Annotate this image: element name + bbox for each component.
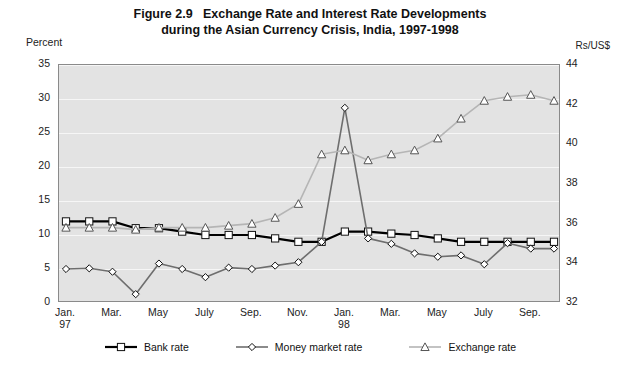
data-point-square <box>225 231 232 238</box>
data-series-layer <box>59 65 560 302</box>
x-axis-tick-label: Sep. <box>506 306 554 318</box>
x-axis-tick-label: May <box>134 306 182 318</box>
data-point-square <box>272 235 279 242</box>
left-axis-tick-label: 5 <box>22 261 50 273</box>
data-point-square <box>434 235 441 242</box>
data-point-diamond <box>527 245 534 252</box>
x-axis-tick-label: Nov. <box>273 306 321 318</box>
legend-label: Exchange rate <box>448 341 516 353</box>
plot-area <box>58 64 560 302</box>
data-point-diamond <box>248 343 255 350</box>
data-point-diamond <box>202 274 209 281</box>
left-axis-tick-label: 15 <box>22 193 50 205</box>
figure-container: Figure 2.9 Exchange Rate and Interest Ra… <box>0 0 620 368</box>
data-point-square <box>388 230 395 237</box>
left-axis-tick-label: 10 <box>22 227 50 239</box>
title-line-2: during the Asian Currency Crisis, India,… <box>0 22 620 38</box>
legend-marker-square-icon <box>104 340 138 354</box>
legend-item-bank-rate[interactable]: Bank rate <box>104 340 189 354</box>
data-point-diamond <box>388 240 395 247</box>
data-point-square <box>481 238 488 245</box>
data-point-triangle <box>294 200 302 208</box>
figure-number: Figure 2.9 <box>134 7 193 21</box>
legend-label: Money market rate <box>275 341 363 353</box>
data-point-square <box>202 231 209 238</box>
right-axis-tick-label: 32 <box>566 295 596 307</box>
data-point-diamond <box>434 253 441 260</box>
chart-legend: Bank rateMoney market rateExchange rate <box>0 340 620 354</box>
left-axis-unit-label: Percent <box>26 36 62 48</box>
data-point-diamond <box>364 235 371 242</box>
x-axis-tick-label: Jan.97 <box>41 306 89 330</box>
title-line-1: Exchange Rate and Interest Rate Developm… <box>203 7 486 21</box>
data-point-square <box>295 238 302 245</box>
legend-item-exchange-rate[interactable]: Exchange rate <box>408 340 516 354</box>
data-point-diamond <box>457 252 464 259</box>
x-axis-tick-label: Jan.98 <box>320 306 368 330</box>
data-point-diamond <box>272 262 279 269</box>
legend-marker-diamond-icon <box>235 340 269 354</box>
data-point-diamond <box>550 245 557 252</box>
data-point-square <box>341 228 348 235</box>
right-axis-tick-label: 38 <box>566 176 596 188</box>
right-axis-tick-label: 44 <box>566 57 596 69</box>
right-axis-tick-label: 42 <box>566 97 596 109</box>
x-axis-tick-label: Sep. <box>227 306 275 318</box>
x-axis-tick-label: May <box>413 306 461 318</box>
data-point-square <box>457 238 464 245</box>
left-axis-tick-label: 25 <box>22 125 50 137</box>
right-axis-tick-label: 34 <box>566 255 596 267</box>
series-exchange-rate <box>62 91 558 234</box>
data-point-square <box>411 231 418 238</box>
data-point-diamond <box>86 265 93 272</box>
data-point-diamond <box>411 250 418 257</box>
x-axis-tick-label: July <box>180 306 228 318</box>
data-point-diamond <box>341 104 348 111</box>
left-axis-tick-label: 35 <box>22 57 50 69</box>
right-axis-tick-label: 36 <box>566 216 596 228</box>
legend-item-money-market-rate[interactable]: Money market rate <box>235 340 363 354</box>
left-axis-tick-label: 30 <box>22 91 50 103</box>
data-point-diamond <box>62 265 69 272</box>
chart-title: Figure 2.9 Exchange Rate and Interest Ra… <box>0 6 620 38</box>
data-point-square <box>117 343 124 350</box>
data-point-square <box>248 231 255 238</box>
x-axis-tick-label: July <box>459 306 507 318</box>
data-point-diamond <box>225 264 232 271</box>
series-money-market-rate <box>62 104 557 298</box>
legend-label: Bank rate <box>144 341 189 353</box>
x-axis-tick-label: Mar. <box>366 306 414 318</box>
data-point-diamond <box>248 265 255 272</box>
data-point-triangle <box>271 214 279 222</box>
x-axis-tick-label: Mar. <box>88 306 136 318</box>
data-point-diamond <box>179 265 186 272</box>
right-axis-tick-label: 40 <box>566 136 596 148</box>
right-axis-unit-label: Rs/US$ <box>576 40 610 51</box>
left-axis-tick-label: 20 <box>22 159 50 171</box>
legend-marker-triangle-icon <box>408 340 442 354</box>
